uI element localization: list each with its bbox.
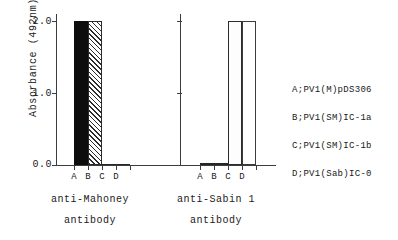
bar-left-c <box>102 164 116 165</box>
category-label-left-a: A <box>69 172 79 182</box>
bar-right-c <box>228 21 242 165</box>
x-tick-left-a <box>74 166 75 170</box>
bar-right-d <box>242 21 256 165</box>
bar-left-a <box>74 21 88 165</box>
x-tick-right-b <box>214 166 215 170</box>
x-tick-right-a <box>200 166 201 170</box>
group-caption-left-line2: antibody <box>44 215 136 226</box>
y-tick-mark-1-left <box>52 93 57 94</box>
category-label-left-b: B <box>83 172 93 182</box>
x-tick-left-d <box>116 166 117 170</box>
y-tick-mark-1-middle <box>177 93 182 94</box>
y-tick-mark-2-left <box>52 21 57 22</box>
y-axis-middle-line <box>180 14 181 166</box>
y-tick-label-2: 2.0 <box>18 16 52 27</box>
bar-right-b <box>214 163 228 165</box>
category-label-right-d: D <box>237 172 247 182</box>
x-tick-left-b <box>88 166 89 170</box>
category-label-right-b: B <box>209 172 219 182</box>
legend-item-d: D;PV1(Sab)IC-0 <box>292 170 398 179</box>
group-caption-right-line1: anti-Sabin 1 <box>170 194 262 205</box>
y-tick-label-1: 1.0 <box>18 88 52 99</box>
x-axis-line <box>56 165 276 166</box>
legend-item-a: A;PV1(M)pDS306 <box>292 86 398 95</box>
x-tick-right-d <box>242 166 243 170</box>
y-tick-mark-2-middle <box>177 21 182 22</box>
x-tick-left-c <box>102 166 103 170</box>
bar-left-d <box>116 164 130 165</box>
group-caption-left-line1: anti-Mahoney <box>44 194 136 205</box>
category-label-left-c: C <box>97 172 107 182</box>
y-axis-left-line <box>56 14 57 166</box>
y-tick-mark-0-left <box>52 165 57 166</box>
absorbance-bar-chart-figure: Absorbance (492nm) 2.0 1.0 0.0 <box>0 0 398 240</box>
category-label-right-a: A <box>195 172 205 182</box>
category-label-left-d: D <box>111 172 121 182</box>
y-tick-label-0: 0.0 <box>18 159 52 170</box>
legend-item-b: B;PV1(SM)IC-1a <box>292 114 398 123</box>
plot-area <box>56 14 276 166</box>
x-tick-left-end <box>130 166 131 170</box>
bar-right-a <box>200 163 214 165</box>
x-tick-right-end <box>256 166 257 170</box>
legend-item-c: C;PV1(SM)IC-1b <box>292 142 398 151</box>
bar-left-b <box>88 21 102 165</box>
x-tick-right-c <box>228 166 229 170</box>
group-caption-right-line2: antibody <box>170 215 262 226</box>
category-label-right-c: C <box>223 172 233 182</box>
legend: A;PV1(M)pDS306 B;PV1(SM)IC-1a C;PV1(SM)I… <box>292 86 398 198</box>
